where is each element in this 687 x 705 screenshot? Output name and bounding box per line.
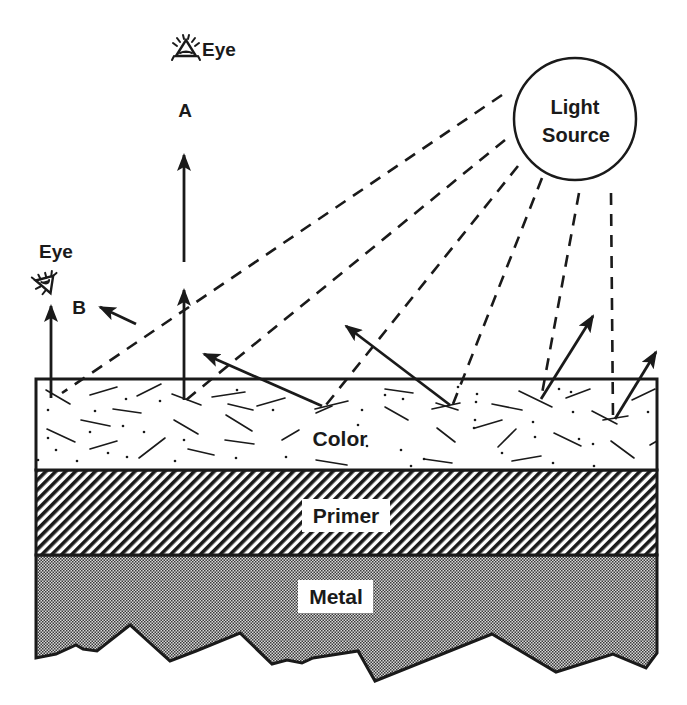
incident-ray-2 — [186, 140, 505, 400]
eye-icon — [32, 270, 62, 297]
eye-label-a: Eye — [202, 39, 236, 60]
scattered-ray-toward-b — [100, 307, 136, 324]
svg-text:Primer: Primer — [313, 504, 380, 527]
light-source: Light Source — [514, 58, 636, 180]
observer-a: Eye A — [172, 35, 236, 121]
eye-label-b: Eye — [39, 241, 73, 262]
metal-layer-label: Metal — [298, 580, 373, 613]
paint-layers-diagram: Color Primer Metal Light Source — [0, 0, 687, 705]
observer-b: Eye B — [32, 241, 86, 318]
primer-layer-label: Primer — [302, 499, 390, 532]
eye-icon — [172, 35, 200, 60]
incident-ray-4 — [453, 178, 542, 404]
color-layer — [36, 379, 657, 470]
light-source-label-line1: Light — [551, 96, 600, 118]
position-label-b: B — [72, 297, 86, 318]
light-source-label-line2: Source — [542, 124, 610, 146]
color-layer-label: Color — [313, 427, 368, 450]
svg-text:Metal: Metal — [309, 585, 363, 608]
position-label-a: A — [178, 100, 192, 121]
incident-ray-1 — [62, 95, 502, 393]
metal-body — [36, 555, 657, 681]
incident-ray-3 — [326, 166, 518, 405]
svg-text:Color: Color — [313, 427, 368, 450]
